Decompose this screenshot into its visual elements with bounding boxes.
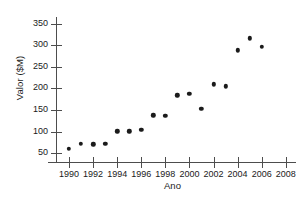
data-point (127, 129, 131, 133)
data-point (139, 127, 143, 131)
data-point (163, 114, 167, 118)
data-points-layer (57, 18, 293, 162)
data-point (115, 129, 119, 133)
y-tick-label-text: 350 (24, 19, 48, 28)
y-tick-label-text: 250 (24, 62, 48, 71)
scatter-chart: Valor ($M) 50100150200250300350 19901992… (0, 0, 308, 200)
y-tick-label: 50 (22, 148, 48, 157)
data-point (103, 142, 107, 146)
data-point (175, 93, 179, 97)
y-tick-label-text: 100 (24, 127, 48, 136)
data-point (151, 113, 155, 117)
data-point (91, 142, 95, 146)
data-point (199, 107, 203, 111)
y-tick-label-text: 150 (24, 105, 48, 114)
x-tick-label-text: 2008 (271, 169, 301, 179)
x-tick-label: 2008 (271, 169, 301, 179)
data-point (247, 36, 251, 40)
y-tick-label: 250 (22, 62, 48, 71)
y-tick-label: 100 (22, 127, 48, 136)
y-tick-label: 300 (22, 40, 48, 49)
data-point (235, 48, 239, 52)
data-point (79, 142, 83, 146)
data-point (67, 146, 71, 150)
y-tick-label: 150 (22, 105, 48, 114)
y-tick-label-text: 200 (24, 83, 48, 92)
x-axis-title: Ano (55, 180, 290, 191)
y-tick-label: 200 (22, 83, 48, 92)
data-point (211, 82, 215, 86)
data-point (259, 45, 263, 49)
y-tick-label-text: 300 (24, 40, 48, 49)
y-tick-label-text: 50 (24, 148, 48, 157)
y-tick-label: 350 (22, 19, 48, 28)
data-point (223, 84, 227, 88)
x-axis-line (48, 162, 296, 163)
data-point (187, 92, 191, 96)
